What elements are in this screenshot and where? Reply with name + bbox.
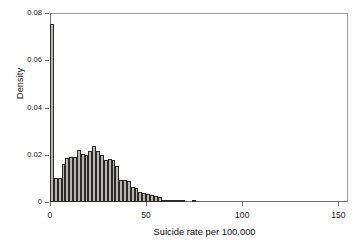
y-tick-label: 0.08 (27, 9, 42, 17)
y-tick-label: 0.02 (27, 151, 42, 159)
x-tick-label: 50 (141, 211, 151, 220)
histogram-bar (50, 24, 54, 202)
x-tick-label: 100 (235, 211, 249, 220)
x-axis: Suicide rate per 100.000 050100150 (0, 202, 359, 252)
x-tick-mark (338, 202, 339, 206)
histogram-figure: Density 00.020.040.060.08 Suicide rate p… (0, 0, 359, 252)
x-tick-label: 0 (48, 211, 53, 220)
x-tick-mark (50, 202, 51, 206)
x-axis-title: Suicide rate per 100.000 (0, 226, 359, 237)
y-tick-mark (45, 155, 49, 156)
y-tick-label: 0.04 (27, 104, 42, 112)
y-tick-mark (45, 108, 49, 109)
x-tick-label: 150 (331, 211, 345, 220)
y-axis-title: Density (14, 29, 25, 139)
x-tick-mark (242, 202, 243, 206)
plot-area (50, 13, 348, 202)
y-tick-label: 0.06 (27, 56, 42, 64)
x-tick-mark (146, 202, 147, 206)
y-tick-mark (45, 60, 49, 61)
y-tick-mark (45, 13, 49, 14)
